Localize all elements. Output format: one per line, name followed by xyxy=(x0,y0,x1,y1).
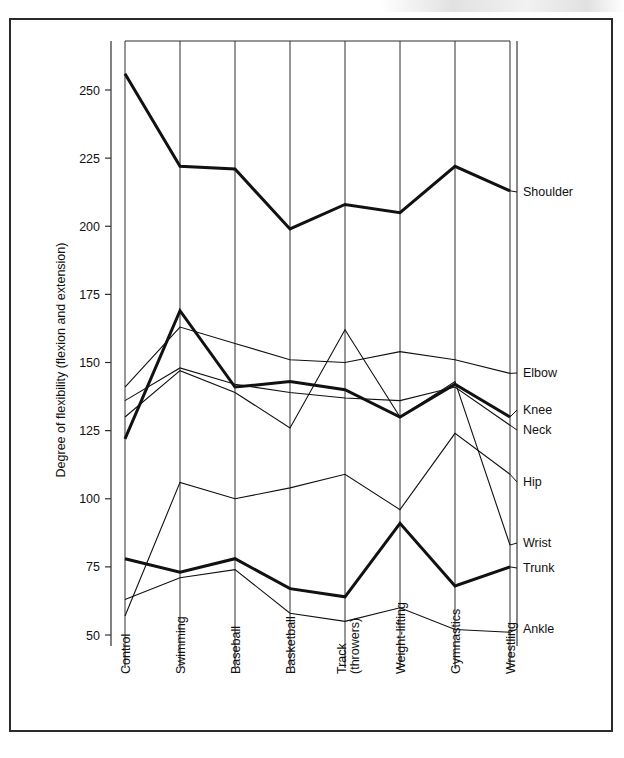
y-tick-label-175: 175 xyxy=(79,288,100,302)
x-label-weight-lifting: Weight-lifting xyxy=(394,602,408,674)
series-label-trunk: Trunk xyxy=(523,561,555,575)
series-line-knee xyxy=(125,311,510,439)
x-label-gymnastics: Gymnastics xyxy=(449,609,463,674)
series-label-elbow: Elbow xyxy=(523,366,558,380)
series-label-ankle: Ankle xyxy=(523,622,554,636)
leader-trunk xyxy=(510,567,517,568)
leader-hip xyxy=(510,474,517,482)
leader-knee xyxy=(510,410,517,417)
x-label-track: Track xyxy=(335,642,349,674)
y-axis-ticks xyxy=(105,90,111,635)
vertical-gridlines xyxy=(125,41,510,646)
y-axis-title: Degree of flexibility (flexion and exten… xyxy=(54,243,68,478)
x-label-baseball: Baseball xyxy=(229,626,243,674)
x-label-track-throwers-line2: (throwers) xyxy=(348,618,362,674)
series-label-hip: Hip xyxy=(523,475,542,489)
y-tick-label-75: 75 xyxy=(86,560,100,574)
series-leader-lines xyxy=(510,41,517,646)
flexibility-line-chart: 2502252001751501251007550 Degree of flex… xyxy=(0,0,624,758)
y-axis-title-text: Degree of flexibility (flexion and exten… xyxy=(54,243,68,478)
series-label-shoulder: Shoulder xyxy=(523,185,573,199)
y-tick-label-200: 200 xyxy=(79,220,100,234)
leader-shoulder xyxy=(510,191,517,192)
x-label-swimming: Swimming xyxy=(174,616,188,674)
series-line-trunk xyxy=(125,523,510,597)
y-tick-label-225: 225 xyxy=(79,152,100,166)
x-axis-category-labels: ControlSwimmingBaseballBasketballTrack(t… xyxy=(119,602,518,674)
plot-frame xyxy=(111,41,510,646)
series-line-shoulder xyxy=(125,74,510,229)
leader-wrist xyxy=(510,543,517,545)
series-end-labels: ShoulderElbowKneeNeckHipWristTrunkAnkle xyxy=(523,185,573,636)
x-label-control: Control xyxy=(119,634,133,674)
series-label-wrist: Wrist xyxy=(523,536,552,550)
series-line-neck xyxy=(125,368,510,425)
x-label-basketball: Basketball xyxy=(284,616,298,674)
series-label-neck: Neck xyxy=(523,423,552,437)
data-series-lines xyxy=(125,74,510,633)
series-label-knee: Knee xyxy=(523,403,552,417)
y-tick-label-50: 50 xyxy=(86,629,100,643)
series-line-hip xyxy=(125,433,510,616)
y-tick-label-150: 150 xyxy=(79,356,100,370)
y-tick-label-125: 125 xyxy=(79,424,100,438)
x-label-wrestling: Wrestling xyxy=(504,622,518,674)
leader-neck xyxy=(510,425,517,430)
y-tick-label-100: 100 xyxy=(79,492,100,506)
y-tick-label-250: 250 xyxy=(79,84,100,98)
y-axis-tick-labels: 2502252001751501251007550 xyxy=(79,84,100,643)
